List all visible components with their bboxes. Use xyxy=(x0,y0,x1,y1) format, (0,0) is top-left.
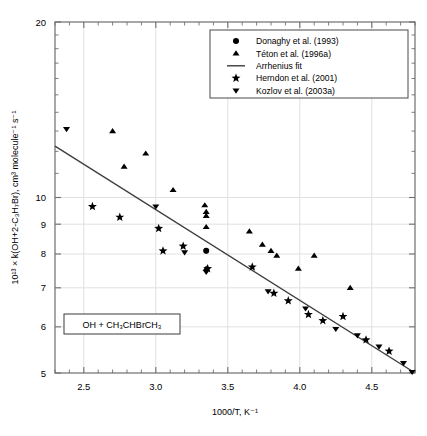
legend-label: Téton et al. (1996a) xyxy=(256,49,331,59)
arrhenius-fit-line xyxy=(55,146,414,372)
data-point xyxy=(295,266,302,271)
series-1 xyxy=(109,128,354,290)
data-point xyxy=(332,327,339,332)
data-point xyxy=(259,242,266,247)
data-point xyxy=(339,312,348,320)
data-point xyxy=(203,270,210,275)
data-point xyxy=(273,253,280,258)
chart-svg: 2.53.03.54.04.5567891020 Donaghy et al. … xyxy=(0,0,427,436)
legend-label: Arrhenius fit xyxy=(256,61,302,71)
x-axis-title: 1000/T, K⁻¹ xyxy=(212,407,258,417)
data-point xyxy=(203,224,210,229)
x-tick-label: 3.5 xyxy=(221,381,234,392)
x-tick-label: 4.5 xyxy=(365,381,378,392)
data-point xyxy=(268,248,275,253)
annotation-box: OH + CH₃CHBrCH₃ xyxy=(64,314,180,334)
y-tick-label: 6 xyxy=(41,321,46,332)
data-point xyxy=(347,285,354,290)
x-tick-label: 3.0 xyxy=(149,381,162,392)
y-tick-label: 8 xyxy=(41,248,46,259)
series-0 xyxy=(203,248,209,254)
fit-line-layer xyxy=(55,146,414,372)
data-point xyxy=(170,187,177,192)
data-point xyxy=(246,228,253,233)
data-point xyxy=(109,128,116,133)
data-point xyxy=(142,150,149,155)
data-point xyxy=(248,262,257,270)
data-point xyxy=(159,246,168,254)
series-3 xyxy=(63,127,416,375)
data-point xyxy=(121,163,128,168)
data-point xyxy=(179,242,188,250)
figure-container: 2.53.03.54.04.5567891020 Donaghy et al. … xyxy=(0,0,427,436)
data-point xyxy=(311,253,318,258)
data-points-layer xyxy=(63,127,416,375)
legend-label: Kozlov et al. (2003a) xyxy=(256,86,335,96)
y-tick-label: 7 xyxy=(41,282,46,293)
legend-box: Donaghy et al. (1993)Téton et al. (1996a… xyxy=(210,30,408,98)
axis-titles-layer: 1000/T, K⁻¹10¹³ × k(OH+2-C₃H₇Br), cm³ mo… xyxy=(10,111,258,417)
y-tick-label: 9 xyxy=(41,219,46,230)
data-point xyxy=(115,213,124,221)
x-tick-label: 2.5 xyxy=(77,381,90,392)
data-point xyxy=(63,127,70,132)
y-tick-label: 20 xyxy=(35,17,46,28)
data-point xyxy=(302,306,309,311)
data-point xyxy=(201,202,208,207)
legend-marker-circle xyxy=(233,38,239,44)
legend-label: Donaghy et al. (1993) xyxy=(256,36,339,46)
x-tick-label: 4.0 xyxy=(293,381,306,392)
legend-label: Herndon et al. (2001) xyxy=(256,73,337,83)
data-point xyxy=(203,248,209,254)
data-point xyxy=(88,202,97,210)
y-axis-title: 10¹³ × k(OH+2-C₃H₇Br), cm³ molecule⁻¹ s⁻… xyxy=(10,111,20,285)
annotation-text: OH + CH₃CHBrCH₃ xyxy=(82,320,161,330)
data-point xyxy=(385,346,394,354)
data-point xyxy=(181,250,188,255)
data-point xyxy=(284,296,293,304)
y-tick-label: 10 xyxy=(35,192,46,203)
y-tick-label: 5 xyxy=(41,368,46,379)
